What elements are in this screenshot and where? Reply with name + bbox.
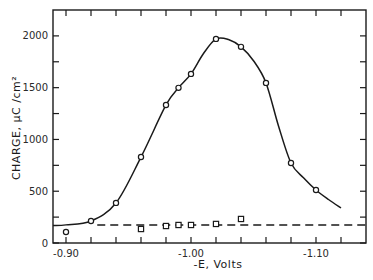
- solid-curve: [53, 38, 341, 226]
- circle-marker: [138, 154, 143, 159]
- x-tick-label: -1.10: [303, 248, 329, 259]
- circle-marker: [263, 80, 268, 85]
- circle-marker: [313, 187, 318, 192]
- square-marker: [163, 223, 168, 228]
- y-tick-label: 1500: [23, 82, 48, 93]
- square-marker: [176, 222, 181, 227]
- y-axis-label: CHARGE, μC /cm²: [10, 76, 23, 180]
- y-tick-label: 500: [29, 186, 48, 197]
- x-tick-label: -0.90: [53, 248, 79, 259]
- square-marker: [138, 226, 143, 231]
- y-axis-ticks: 0500100015002000: [23, 30, 366, 248]
- y-tick-label: 1000: [23, 134, 48, 145]
- x-axis-label: -E, Volts: [194, 258, 243, 271]
- circle-marker: [188, 71, 193, 76]
- square-marker: [213, 221, 218, 226]
- circle-marker: [113, 200, 118, 205]
- y-tick-label: 2000: [23, 30, 48, 41]
- circle-marker: [88, 218, 93, 223]
- y-tick-label: 0: [42, 238, 48, 249]
- circle-marker: [288, 160, 293, 165]
- circle-marker: [238, 44, 243, 49]
- circle-marker: [63, 229, 68, 234]
- circle-marker: [176, 85, 181, 90]
- circle-marker: [213, 36, 218, 41]
- x-axis-ticks: -0.90-1.00-1.10: [53, 10, 341, 259]
- charge-vs-potential-chart: -0.90-1.00-1.10 0500100015002000 -E, Vol…: [0, 0, 373, 280]
- square-marker: [188, 222, 193, 227]
- circle-marker: [163, 102, 168, 107]
- square-marker: [238, 216, 243, 221]
- data-series: [53, 36, 366, 234]
